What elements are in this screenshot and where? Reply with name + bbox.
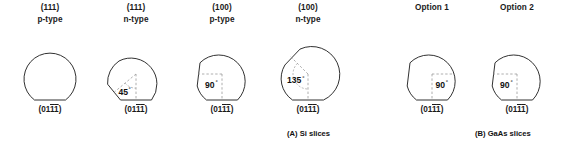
index-prefix: (01 <box>211 105 222 114</box>
wafer-header: Option 2 <box>471 2 563 14</box>
degree-symbol: ° <box>302 75 304 81</box>
index-suffix: ) <box>59 105 62 114</box>
wafer-doping-label: n-type <box>262 14 354 26</box>
angle-value: 90 <box>500 80 510 90</box>
wafer-si-111-p: (111) p-type (0111) <box>4 0 96 125</box>
index-prefix: (01 <box>297 105 308 114</box>
wafer-diagram <box>4 26 96 104</box>
wafer-plane-label: Option 1 <box>386 2 478 14</box>
wafer-plane-label: Option 2 <box>471 2 563 14</box>
wafer-doping-label: p-type <box>4 14 96 26</box>
degree-symbol: ° <box>510 79 512 85</box>
wafer-outline <box>492 55 540 100</box>
wafer-diagram: 135 ° <box>262 26 354 104</box>
angle-value: 45 <box>119 87 129 97</box>
wafer-miller-index: (0111) <box>262 105 354 114</box>
wafer-doping-label: p-type <box>176 14 268 26</box>
index-suffix: ) <box>145 105 148 114</box>
wafer-si-100-p: (100) p-type 90 ° (0111) <box>176 0 268 125</box>
wafer-plane-label: (111) <box>90 2 182 14</box>
wafer-orientation-figure: (111) p-type (0111) (111) n-type <box>0 0 563 149</box>
index-prefix: (01 <box>506 105 517 114</box>
wafer-outline <box>281 47 340 100</box>
wafer-miller-index: (0111) <box>90 105 182 114</box>
wafer-si-100-n: (100) n-type 135 ° (0111) <box>262 0 354 125</box>
wafer-header: (100) p-type <box>176 2 268 25</box>
group-caption-si: (A) Si slices <box>287 129 330 138</box>
index-prefix: (01 <box>421 105 432 114</box>
degree-symbol: ° <box>446 79 448 85</box>
wafer-plane-label: (111) <box>4 2 96 14</box>
index-prefix: (01 <box>125 105 136 114</box>
index-prefix: (01 <box>39 105 50 114</box>
wafer-outline <box>108 58 157 100</box>
index-suffix: ) <box>526 105 529 114</box>
wafer-gaas-option-1: Option 1 90 ° (0111) <box>386 0 478 125</box>
wafer-header: (111) n-type <box>90 2 182 25</box>
wafer-miller-index: (0111) <box>4 105 96 114</box>
wafer-gaas-option-2: Option 2 90 ° (0111) <box>471 0 563 125</box>
index-suffix: ) <box>441 105 444 114</box>
wafer-diagram: 45 ° <box>90 26 182 104</box>
wafer-diagram: 90 ° <box>471 26 563 104</box>
group-caption-gaas: (B) GaAs slices <box>475 129 531 138</box>
wafer-miller-index: (0111) <box>471 105 563 114</box>
wafer-header: Option 1 <box>386 2 478 14</box>
angle-value: 135 <box>287 75 302 85</box>
index-suffix: ) <box>231 105 234 114</box>
wafer-miller-index: (0111) <box>386 105 478 114</box>
wafer-doping-label: n-type <box>90 14 182 26</box>
wafer-diagram: 90 ° <box>386 26 478 104</box>
degree-symbol: ° <box>215 79 217 85</box>
wafer-outline <box>24 53 76 100</box>
wafer-outline <box>407 55 455 100</box>
wafer-miller-index: (0111) <box>176 105 268 114</box>
index-suffix: ) <box>317 105 320 114</box>
wafer-header: (100) n-type <box>262 2 354 25</box>
wafer-header: (111) p-type <box>4 2 96 25</box>
angle-value: 90 <box>435 80 445 90</box>
wafer-diagram: 90 ° <box>176 26 268 104</box>
wafer-plane-label: (100) <box>176 2 268 14</box>
wafer-plane-label: (100) <box>262 2 354 14</box>
degree-symbol: ° <box>129 86 131 92</box>
wafer-si-111-n: (111) n-type 45 ° (0111) <box>90 0 182 125</box>
wafer-outline <box>197 55 245 100</box>
angle-value: 90 <box>205 80 215 90</box>
